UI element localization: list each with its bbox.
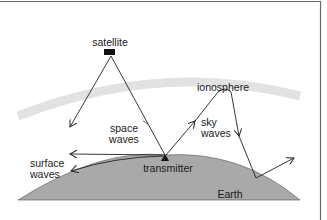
sky-wave-up bbox=[166, 121, 195, 155]
transmitter-label: transmitter bbox=[143, 162, 193, 174]
earth-label: Earth bbox=[217, 188, 242, 200]
sky-wave-ground-bounce bbox=[256, 158, 294, 178]
satellite-label: satellite bbox=[92, 36, 128, 48]
satellite-icon bbox=[104, 49, 115, 55]
surface-waves-label-2: waves bbox=[29, 168, 60, 180]
propagation-diagram: satellite ionosphere space waves sky wav… bbox=[0, 0, 327, 220]
diagram-svg: satellite ionosphere space waves sky wav… bbox=[0, 0, 327, 220]
space-waves-label-2: waves bbox=[108, 133, 139, 145]
ionosphere-label: ionosphere bbox=[197, 81, 249, 93]
sky-waves-label-2: waves bbox=[200, 127, 231, 139]
ionosphere-band bbox=[18, 82, 300, 116]
